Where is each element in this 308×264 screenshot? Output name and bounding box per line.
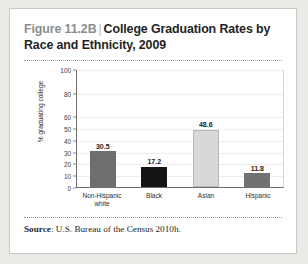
y-axis-title: % graduating college	[37, 58, 44, 166]
y-tick-label: 100	[60, 67, 71, 74]
source-text: U.S. Bureau of the Census 2010h.	[56, 224, 181, 234]
plot-area: 30.517.248.611.8	[76, 70, 284, 188]
bar[interactable]	[244, 173, 270, 187]
bar[interactable]	[193, 130, 219, 187]
title-divider	[24, 60, 282, 61]
x-axis-labels: Non-HispanicwhiteBlackAsianHispanic	[76, 192, 284, 208]
bar-group: 30.5	[80, 70, 125, 187]
y-tick-label: 80	[64, 90, 71, 97]
bar-value-label: 17.2	[147, 158, 161, 165]
x-tick-label: Asian	[183, 192, 229, 208]
y-tick-label: 0	[67, 185, 71, 192]
source-colon: :	[51, 224, 54, 234]
title-separator: |	[96, 22, 103, 36]
bar[interactable]	[90, 151, 116, 187]
y-tick-label: 40	[64, 137, 71, 144]
bar-series: 30.517.248.611.8	[77, 70, 283, 187]
page-title: Figure 11.2B|College Graduation Rates by…	[24, 22, 282, 53]
bar-group: 48.6	[183, 70, 228, 187]
y-axis-ticks: 010203040506080100	[50, 70, 76, 188]
bar-value-label: 11.8	[251, 165, 264, 172]
y-tick-label: 20	[64, 161, 71, 168]
y-tick-label: 60	[64, 114, 71, 121]
figure-card: Figure 11.2B|College Graduation Rates by…	[9, 8, 297, 254]
bar-group: 11.8	[235, 70, 280, 187]
x-tick-label: Non-Hispanicwhite	[79, 192, 125, 208]
bar-value-label: 30.5	[96, 143, 110, 150]
source-note: Source: U.S. Bureau of the Census 2010h.	[10, 218, 296, 234]
y-tick-label: 30	[64, 149, 71, 156]
source-label: Source	[24, 224, 51, 234]
bar-chart: % graduating college 010203040506080100 …	[20, 70, 286, 205]
y-tick-label: 10	[64, 173, 71, 180]
figure-title-block: Figure 11.2B|College Graduation Rates by…	[10, 9, 296, 53]
bar-value-label: 48.6	[199, 121, 213, 128]
x-tick-label: Hispanic	[235, 192, 281, 208]
y-tick-label: 50	[64, 126, 71, 133]
x-tick-label: Black	[131, 192, 177, 208]
bar-group: 17.2	[132, 70, 177, 187]
figure-number: Figure 11.2B	[24, 22, 96, 36]
bar[interactable]	[141, 167, 167, 187]
